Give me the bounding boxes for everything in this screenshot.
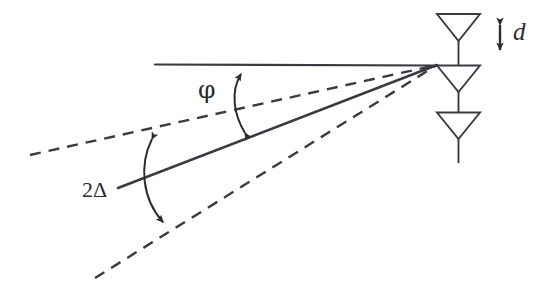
- figure-canvas: [0, 0, 541, 296]
- antenna-element-top: [437, 14, 480, 65]
- antenna-element-middle: [437, 66, 480, 113]
- two-delta-beamwidth-label: 2Δ: [82, 179, 107, 201]
- beam-axis-solid-ray: [118, 65, 437, 188]
- phi-angle-arc: [234, 74, 245, 133]
- upper-dashed-beam-edge: [30, 65, 437, 155]
- lower-dashed-beam-edge: [95, 65, 437, 278]
- antenna-element-bottom: [437, 113, 480, 164]
- element-spacing-label: d: [513, 19, 526, 44]
- phi-angle-label: φ: [198, 77, 216, 102]
- boresight-reference-line: [155, 65, 437, 66]
- antenna-geometry-figure: φ 2Δ d: [0, 0, 541, 296]
- two-delta-angle-arc: [144, 139, 163, 222]
